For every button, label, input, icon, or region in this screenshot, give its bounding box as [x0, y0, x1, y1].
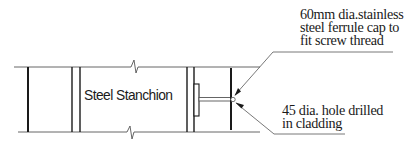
- bottom-edge-line: [18, 126, 260, 139]
- fixing-plate: [194, 84, 199, 116]
- hole-note: 45 dia. hole drilled in cladding: [282, 104, 383, 130]
- ferrule-note-line-3: fit screw thread: [300, 34, 403, 47]
- threaded-rod: [199, 98, 231, 102]
- ferrule-note: 60mm dia.stainless steel ferrule cap to …: [300, 8, 403, 48]
- ferrule-cap: [231, 97, 235, 101]
- hole-note-line-2: in cladding: [282, 117, 383, 130]
- top-edge-line: [14, 60, 260, 73]
- detail-drawing: Steel Stanchion 60mm dia.stainless steel…: [0, 0, 418, 150]
- ferrule-leader: [235, 52, 393, 95]
- hole-leader-arrowhead: [236, 103, 245, 109]
- stanchion-label: Steel Stanchion: [84, 86, 172, 103]
